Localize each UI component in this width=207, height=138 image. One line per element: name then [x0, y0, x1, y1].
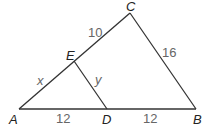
measure-label-ad: 12: [56, 111, 70, 126]
measure-label-ae: x: [36, 73, 44, 88]
segment-ed: [74, 61, 107, 109]
vertex-label-b: B: [193, 112, 202, 127]
segment-cb: [130, 13, 196, 109]
measure-label-cb: 16: [162, 45, 176, 60]
measure-label-db: 12: [143, 111, 157, 126]
vertex-label-a: A: [8, 112, 18, 127]
vertex-label-c: C: [126, 0, 136, 14]
vertex-label-d: D: [102, 112, 111, 127]
measure-label-ec: 10: [88, 25, 102, 40]
diagram-canvas: A B C D E 10 16 x y 12 12: [0, 0, 207, 138]
vertex-label-e: E: [66, 48, 75, 63]
measure-label-ed: y: [94, 72, 103, 87]
triangle-diagram: A B C D E 10 16 x y 12 12: [0, 0, 207, 138]
